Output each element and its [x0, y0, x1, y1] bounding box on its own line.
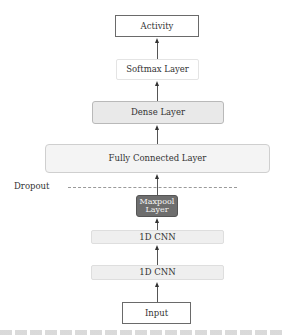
dense-label: Dense Layer: [131, 108, 185, 117]
arrowhead-icon: [155, 218, 159, 223]
softmax-node: Softmax Layer: [116, 59, 199, 80]
arrowhead-icon: [155, 282, 159, 287]
dropout-dashed-line: [68, 187, 237, 188]
cnn-node-upper: 1D CNN: [91, 230, 224, 244]
arrowhead-icon: [155, 125, 159, 130]
cnn-node-lower: 1D CNN: [91, 265, 224, 280]
arrowhead-icon: [155, 81, 159, 86]
arrowhead-icon: [155, 245, 159, 250]
activity-node: Activity: [115, 15, 199, 37]
fully-connected-node: Fully Connected Layer: [45, 144, 270, 173]
input-node: Input: [122, 302, 191, 324]
activity-label: Activity: [141, 22, 174, 31]
edge-input-cnn1: [157, 286, 158, 302]
dropout-label: Dropout: [14, 181, 49, 191]
edge-dense-softmax: [157, 85, 158, 101]
edge-fc-dense: [157, 129, 158, 144]
fully-connected-label: Fully Connected Layer: [109, 154, 207, 163]
maxpool-node: Maxpool Layer: [136, 195, 178, 217]
edge-cnn1-cnn2: [157, 249, 158, 265]
input-label: Input: [145, 309, 168, 318]
arrowhead-icon: [155, 174, 159, 179]
edge-softmax-activity: [157, 42, 158, 59]
cnn-lower-label: 1D CNN: [139, 268, 175, 277]
arrowhead-icon: [155, 38, 159, 43]
maxpool-label-line2: Layer: [145, 206, 168, 214]
edge-maxpool-fc: [157, 178, 158, 195]
dense-node: Dense Layer: [92, 101, 224, 124]
edge-cnn2-maxpool: [157, 222, 158, 230]
clipped-caption: [0, 330, 282, 335]
softmax-label: Softmax Layer: [126, 65, 189, 74]
cnn-upper-label: 1D CNN: [139, 233, 175, 242]
